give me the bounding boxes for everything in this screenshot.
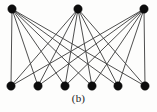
graph-node-top-t1 bbox=[8, 5, 16, 13]
figure-container: (b) bbox=[0, 0, 157, 112]
graph-edge bbox=[144, 9, 145, 86]
graph-node-bottom-b4 bbox=[88, 82, 96, 90]
graph-edge bbox=[38, 9, 144, 86]
graph-node-bottom-b6 bbox=[141, 82, 149, 90]
graph-node-bottom-b3 bbox=[61, 82, 69, 90]
graph-edge bbox=[11, 9, 144, 86]
graph-node-bottom-b1 bbox=[7, 82, 15, 90]
graph-edge bbox=[12, 9, 145, 86]
graph-node-top-t3 bbox=[140, 5, 148, 13]
graph-edge bbox=[92, 9, 144, 86]
figure-caption: (b) bbox=[0, 92, 157, 105]
graph-node-bottom-b2 bbox=[34, 82, 42, 90]
graph-edge bbox=[118, 9, 144, 86]
edge-layer bbox=[11, 9, 145, 86]
graph-edge bbox=[12, 9, 38, 86]
graph-edge bbox=[12, 9, 118, 86]
graph-node-top-t2 bbox=[74, 5, 82, 13]
graph-edge bbox=[11, 9, 12, 86]
graph-node-bottom-b5 bbox=[114, 82, 122, 90]
graph-edge bbox=[12, 9, 65, 86]
